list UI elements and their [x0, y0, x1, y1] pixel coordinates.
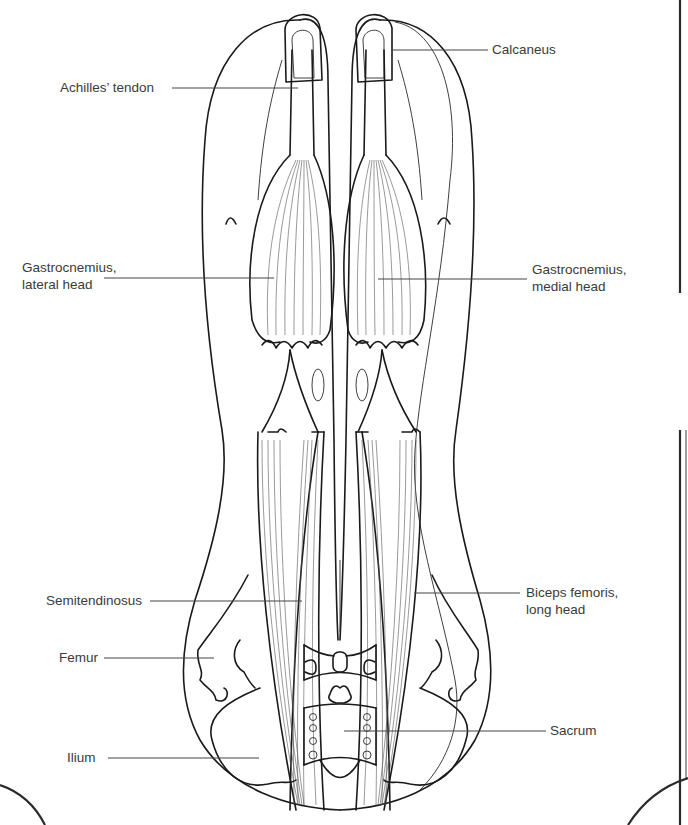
ankle-marks — [226, 218, 450, 224]
anatomy-illustration — [0, 0, 688, 825]
anatomy-diagram: Achilles’ tendon Calcaneus Gastrocnemius… — [0, 0, 688, 825]
leader-lines — [104, 50, 546, 758]
label-calcaneus: Calcaneus — [492, 41, 556, 58]
sacrum-pelvis — [304, 645, 376, 778]
page-frame — [0, 0, 688, 825]
label-biceps-femoris-long-head: Biceps femoris, long head — [526, 584, 618, 618]
gastrocnemius — [250, 155, 426, 348]
popliteal-region — [262, 350, 416, 432]
label-gastrocnemius-medial-head: Gastrocnemius, medial head — [532, 261, 627, 295]
body-silhouette — [184, 19, 491, 810]
label-gastrocnemius-lateral-head: Gastrocnemius, lateral head — [22, 259, 117, 293]
label-femur: Femur — [59, 649, 98, 666]
label-ilium: Ilium — [67, 749, 96, 766]
label-sacrum: Sacrum — [550, 722, 597, 739]
achilles-tendons — [258, 50, 422, 200]
hamstrings — [258, 429, 421, 810]
label-achilles-tendon: Achilles’ tendon — [60, 79, 154, 96]
calcaneus-bones — [285, 15, 392, 82]
label-semitendinosus: Semitendinosus — [46, 592, 142, 609]
